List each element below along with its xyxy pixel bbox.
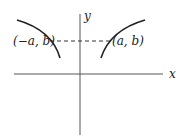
y-axis-label: y (83, 9, 91, 23)
symmetry-diagram: x y (−a, b) (a, b) (0, 0, 186, 140)
x-axis-label: x (169, 67, 176, 81)
point-label-neg-a-b: (−a, b) (13, 34, 55, 48)
point-label-a-b: (a, b) (112, 34, 144, 48)
